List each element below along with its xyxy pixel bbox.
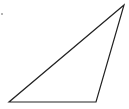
corner-marker-dot: [1, 13, 3, 15]
triangle-shape: [9, 5, 124, 102]
triangle-diagram: [0, 0, 129, 109]
